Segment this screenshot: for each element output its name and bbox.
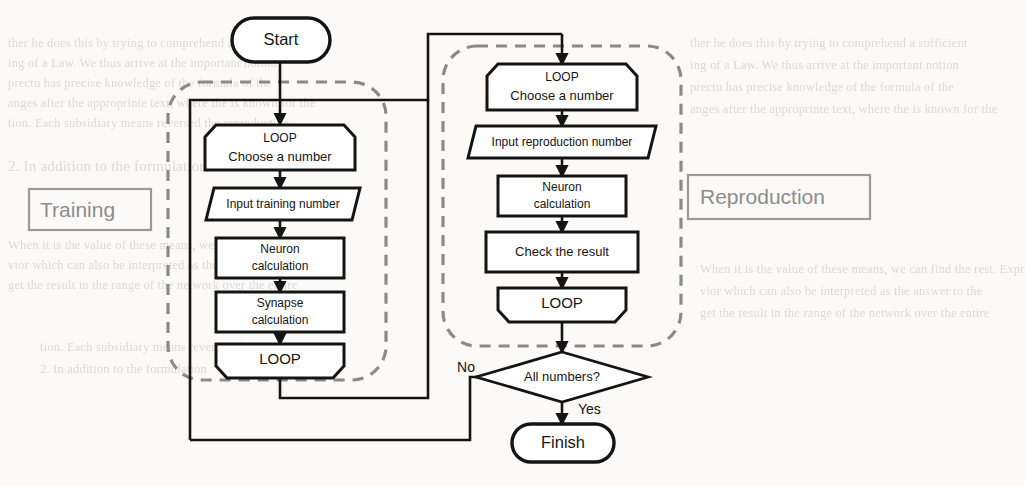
node-finish-label: Finish — [541, 433, 585, 451]
node-training-neuron[interactable]: Neuron calculation — [216, 238, 344, 278]
node-decision-all-numbers[interactable]: All numbers? — [476, 352, 648, 402]
node-training-neuron-line2: calculation — [252, 259, 309, 273]
edge-decision-no — [190, 377, 506, 440]
node-start-label: Start — [264, 30, 299, 48]
node-reproduction-loop-end[interactable]: LOOP — [498, 288, 626, 322]
node-start[interactable]: Start — [232, 18, 330, 62]
node-finish[interactable]: Finish — [512, 424, 614, 462]
node-reproduction-loop-start-line2: Choose a number — [510, 88, 614, 103]
node-training-loop-end-label: LOOP — [259, 350, 301, 367]
node-training-loop-start-line2: Choose a number — [228, 149, 332, 164]
node-training-loop-end[interactable]: LOOP — [216, 344, 344, 378]
node-reproduction-loop-start-line1: LOOP — [545, 70, 578, 84]
node-training-synapse-line1: Synapse — [257, 296, 304, 310]
node-training-loop-start-line1: LOOP — [263, 131, 296, 145]
node-training-synapse-line2: calculation — [252, 313, 309, 327]
node-reproduction-neuron-line2: calculation — [534, 197, 591, 211]
reproduction-tag-label: Reproduction — [700, 185, 825, 208]
edge-label-no: No — [457, 359, 475, 375]
training-tag: Training — [29, 189, 151, 230]
node-decision-label: All numbers? — [524, 369, 600, 384]
node-reproduction-loop-start[interactable]: LOOP Choose a number — [487, 64, 637, 110]
edge-label-yes: Yes — [578, 401, 601, 417]
node-reproduction-neuron[interactable]: Neuron calculation — [498, 176, 626, 216]
node-reproduction-loop-end-label: LOOP — [541, 294, 583, 311]
node-reproduction-input-label: Input reproduction number — [492, 135, 633, 149]
node-training-synapse[interactable]: Synapse calculation — [216, 292, 344, 332]
training-tag-label: Training — [40, 198, 115, 221]
node-training-neuron-line1: Neuron — [260, 242, 299, 256]
node-training-input[interactable]: Input training number — [206, 188, 360, 220]
node-reproduction-check-label: Check the result — [515, 244, 609, 259]
node-reproduction-neuron-line1: Neuron — [542, 180, 581, 194]
node-training-loop-start[interactable]: LOOP Choose a number — [205, 125, 355, 170]
reproduction-tag: Reproduction — [688, 175, 870, 219]
node-reproduction-input[interactable]: Input reproduction number — [468, 126, 656, 158]
node-training-input-label: Input training number — [226, 197, 339, 211]
node-reproduction-check[interactable]: Check the result — [486, 232, 638, 272]
